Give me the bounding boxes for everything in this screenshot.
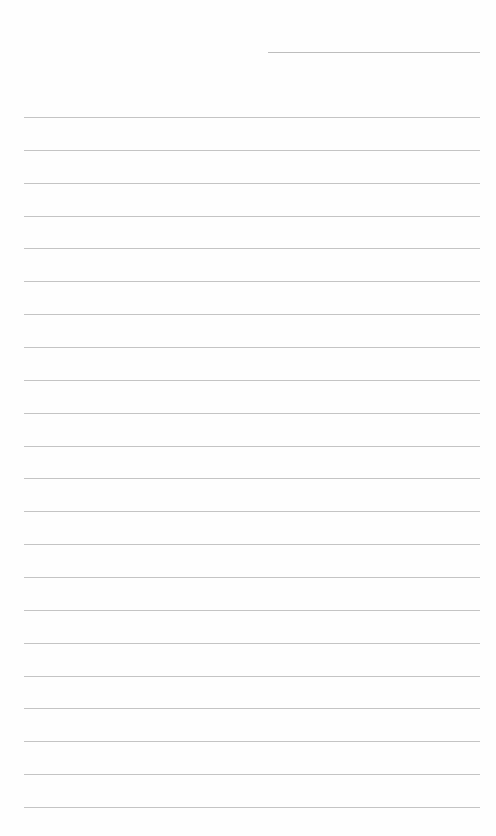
writing-line[interactable] [24,446,480,447]
writing-line[interactable] [24,643,480,644]
writing-line[interactable] [24,511,480,512]
writing-line[interactable] [24,183,480,184]
writing-line[interactable] [24,150,480,151]
writing-line[interactable] [24,774,480,775]
writing-line[interactable] [24,478,480,479]
lined-paper-page [0,0,496,836]
writing-line[interactable] [24,413,480,414]
writing-line[interactable] [24,281,480,282]
writing-line[interactable] [24,544,480,545]
writing-line[interactable] [24,610,480,611]
writing-line[interactable] [24,314,480,315]
writing-line[interactable] [24,676,480,677]
writing-line[interactable] [24,248,480,249]
writing-line[interactable] [24,577,480,578]
writing-line[interactable] [24,347,480,348]
writing-line[interactable] [24,216,480,217]
writing-line[interactable] [24,117,480,118]
writing-line[interactable] [24,807,480,808]
writing-line[interactable] [24,380,480,381]
writing-line[interactable] [24,741,480,742]
date-line[interactable] [268,52,480,53]
writing-line[interactable] [24,708,480,709]
